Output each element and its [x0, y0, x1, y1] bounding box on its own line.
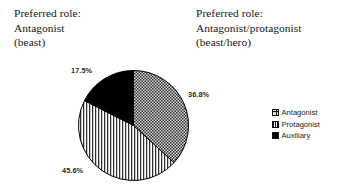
- pie-slices: [78, 71, 188, 181]
- pie-chart: [74, 67, 194, 185]
- vertical-stripe-swatch-icon: [272, 121, 279, 128]
- heading-right: Preferred role: Antagonist/protagonist (…: [196, 6, 302, 50]
- chart-legend: Antagonist Protagonist Auxiliary: [272, 108, 320, 140]
- pie-label-antagonist: 36.8%: [188, 90, 209, 99]
- heading-left-line-3: (beast): [14, 35, 81, 50]
- heading-left-line-2: Antagonist: [14, 21, 81, 36]
- legend-item-protagonist: Protagonist: [272, 120, 320, 129]
- solid-black-swatch-icon: [272, 132, 279, 139]
- legend-item-auxiliary: Auxiliary: [272, 131, 320, 140]
- pie-chart-svg: [74, 67, 194, 185]
- pie-label-auxiliary: 17.5%: [71, 66, 92, 75]
- figure-canvas: Preferred role: Antagonist (beast) Prefe…: [0, 0, 351, 189]
- legend-label-protagonist: Protagonist: [282, 120, 320, 129]
- heading-left: Preferred role: Antagonist (beast): [14, 6, 81, 50]
- pie-label-protagonist: 45.6%: [62, 166, 83, 175]
- heading-right-line-3: (beast/hero): [196, 35, 302, 50]
- heading-right-line-1: Preferred role:: [196, 6, 302, 21]
- legend-item-antagonist: Antagonist: [272, 108, 320, 117]
- legend-label-auxiliary: Auxiliary: [282, 131, 311, 140]
- legend-label-antagonist: Antagonist: [282, 108, 318, 117]
- heading-left-line-1: Preferred role:: [14, 6, 81, 21]
- heading-right-line-2: Antagonist/protagonist: [196, 21, 302, 36]
- crosshatch-swatch-icon: [272, 109, 279, 116]
